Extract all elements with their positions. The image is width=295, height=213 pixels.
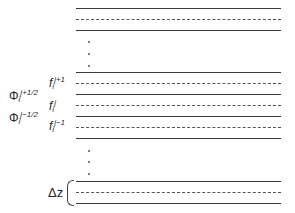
- label-phi-j-plus-half: Φij+1/2: [9, 89, 38, 104]
- brace-icon: [67, 180, 74, 206]
- ellipsis-dot: [88, 173, 90, 175]
- cell-center-line: [76, 127, 281, 128]
- cell-center-line: [76, 83, 281, 84]
- cell-boundary-line: [76, 30, 281, 31]
- label-phi-j-minus-half: Φij−1/2: [9, 111, 38, 126]
- cell-center-line: [76, 192, 281, 193]
- cell-boundary-line: [76, 116, 281, 117]
- ellipsis-dot: [88, 150, 90, 152]
- cell-center-line: [76, 105, 281, 106]
- ellipsis-dot: [88, 53, 90, 55]
- cell-center-line: [76, 19, 281, 20]
- cell-boundary-line: [76, 203, 281, 204]
- cell-boundary-line: [76, 72, 281, 73]
- cell-boundary-line: [76, 8, 281, 9]
- cell-boundary-line: [76, 138, 281, 139]
- label-delta-z: Δz: [48, 186, 63, 199]
- label-f-j-plus-1: fij+1: [49, 76, 65, 91]
- cell-boundary-line: [76, 181, 281, 182]
- ellipsis-dot: [88, 161, 90, 163]
- label-f-j-minus-1: fij−1: [49, 119, 65, 134]
- cell-boundary-line: [76, 94, 281, 95]
- ellipsis-dot: [88, 65, 90, 67]
- label-f-j: fij: [49, 99, 56, 114]
- ellipsis-dot: [88, 41, 90, 43]
